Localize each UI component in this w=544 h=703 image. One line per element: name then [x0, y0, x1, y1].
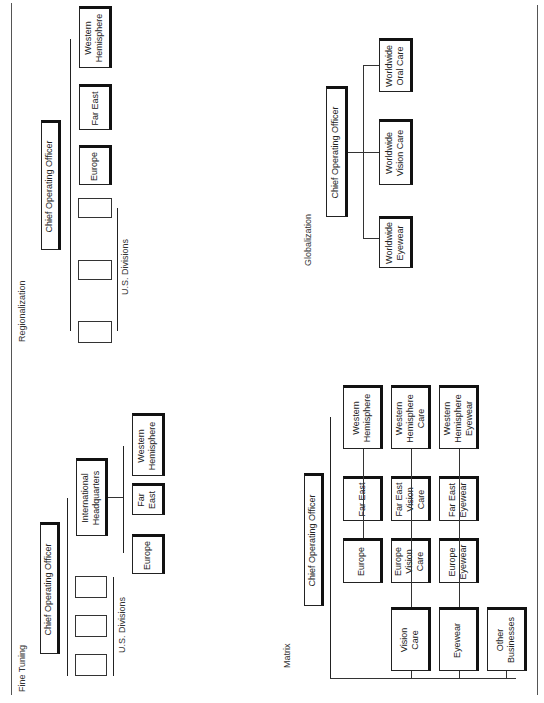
- fine-tuning-main-bar: [67, 498, 68, 676]
- org-structure-page: Regionalization Chief Operating Officer …: [0, 0, 544, 703]
- hq-region-bar: [123, 446, 124, 553]
- us-division-box: [78, 321, 112, 343]
- us-divisions-bracket: [117, 208, 118, 331]
- globalization-title: Globalization: [303, 214, 313, 266]
- globalization-connector: [363, 238, 379, 239]
- globalization-connector: [363, 152, 379, 153]
- matrix-bottom-bar: [330, 678, 516, 679]
- matrix-cell-western-hemisphere-eyewear: Western Hemisphere Eyewear: [439, 385, 479, 449]
- regionalization-main-bar: [70, 39, 71, 331]
- regionalization-title: Regionalization: [17, 280, 27, 342]
- matrix-title: Matrix: [282, 644, 292, 669]
- us-division-box: [75, 615, 107, 637]
- unit-box-worldwide-vision-care: Worldwide Vision Care: [379, 119, 413, 185]
- globalization-coo-box: Chief Operating Officer: [326, 86, 348, 217]
- regionalization-coo-box: Chief Operating Officer: [41, 120, 61, 250]
- globalization-connector: [363, 65, 379, 66]
- hq-connector: [108, 497, 123, 498]
- us-divisions-bracket: [113, 577, 114, 676]
- right-border-line: [537, 5, 538, 695]
- matrix-region-western-hemisphere: Western Hemisphere: [343, 385, 383, 449]
- matrix-connector: [506, 671, 507, 679]
- us-division-box: [78, 198, 112, 218]
- business-box-eyewear: Eyewear: [439, 607, 479, 671]
- matrix-main-bar: [330, 417, 331, 679]
- region-box-europe: Europe: [79, 145, 112, 185]
- left-border-line: [11, 3, 12, 695]
- us-divisions-label: U.S. Divisions: [117, 597, 127, 653]
- international-hq-box: International Headquarters: [76, 458, 108, 536]
- matrix-coo-box: Chief Operating Officer: [304, 473, 324, 606]
- us-division-box: [75, 576, 107, 598]
- region-box-western-hemisphere: Western Hemisphere: [79, 6, 112, 68]
- fine-tuning-coo-box: Chief Operating Officer: [40, 522, 60, 654]
- unit-box-worldwide-oral-care: Worldwide Oral Care: [379, 38, 413, 92]
- us-divisions-label: U.S. Divisions: [120, 239, 130, 295]
- unit-box-worldwide-eyewear: Worldwide Eyewear: [379, 216, 413, 268]
- matrix-row-connector: [459, 449, 460, 607]
- matrix-connector: [411, 671, 412, 679]
- region-box-far-east: Far East: [132, 483, 165, 515]
- matrix-connector: [459, 671, 460, 679]
- matrix-region-europe: Europe: [343, 538, 383, 583]
- region-box-far-east: Far East: [79, 84, 112, 130]
- region-box-europe: Europe: [132, 534, 165, 574]
- us-division-box: [78, 260, 112, 280]
- business-box-vision-care: Vision Care: [391, 607, 431, 671]
- matrix-cell-western-hemisphere-care: Western Hemisphere Care: [391, 385, 431, 449]
- fine-tuning-title: Fine Tuning: [17, 645, 27, 692]
- region-box-western-hemisphere: Western Hemisphere: [132, 413, 165, 476]
- us-division-box: [75, 654, 107, 676]
- matrix-row-connector: [363, 449, 364, 538]
- business-box-other-businesses: Other Businesses: [487, 607, 527, 671]
- matrix-row-connector: [411, 449, 412, 607]
